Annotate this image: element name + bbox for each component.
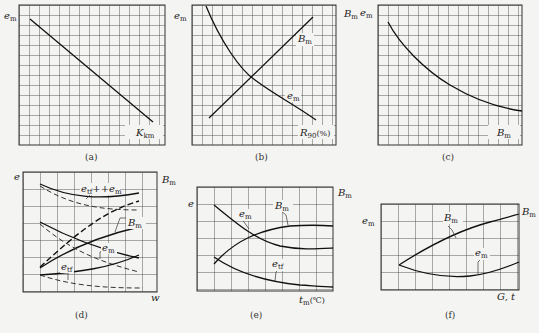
right-label-b: Bm [343, 8, 358, 21]
right-label-e: Bm [337, 187, 352, 200]
grid-e [197, 187, 333, 291]
caption-c: (c) [442, 152, 454, 162]
xlabel-f: G, t [497, 291, 516, 302]
caption-d: (d) [75, 310, 88, 320]
ylabel-c: em [360, 7, 373, 20]
panel-b: em Bm Bm em R90(%) (b) [174, 5, 358, 162]
xlabel-d: w [151, 292, 160, 303]
ylabel-f: em [362, 215, 375, 228]
grid-b [192, 5, 336, 145]
grid-c [378, 5, 522, 145]
ylabel-b: em [174, 10, 187, 23]
grid-a [19, 5, 165, 145]
ylabel-e: e [188, 198, 194, 209]
right-label-d: Bm [161, 174, 176, 187]
panel-a: em Kkm (a) [4, 5, 165, 162]
caption-b: (b) [255, 152, 268, 162]
panel-f: Bm em em Bm G, t (f) [362, 204, 536, 320]
panel-d: etf++em Bm em etf e Bm w (d) [14, 171, 176, 320]
caption-a: (a) [85, 152, 97, 162]
panel-e: em Bm etf e Bm tm(℃) (e) [188, 187, 352, 320]
ylabel-a: em [4, 10, 17, 23]
panel-c: em Bm (c) [360, 5, 522, 162]
caption-e: (e) [250, 310, 262, 320]
right-label-f: Bm [521, 206, 536, 219]
figure-canvas: em Kkm (a) em Bm Bm em R90(%) (b) em Bm … [0, 0, 539, 333]
xlabel-e: tm(℃) [299, 294, 325, 307]
caption-f: (f) [445, 310, 455, 320]
ylabel-d: e [14, 171, 20, 182]
